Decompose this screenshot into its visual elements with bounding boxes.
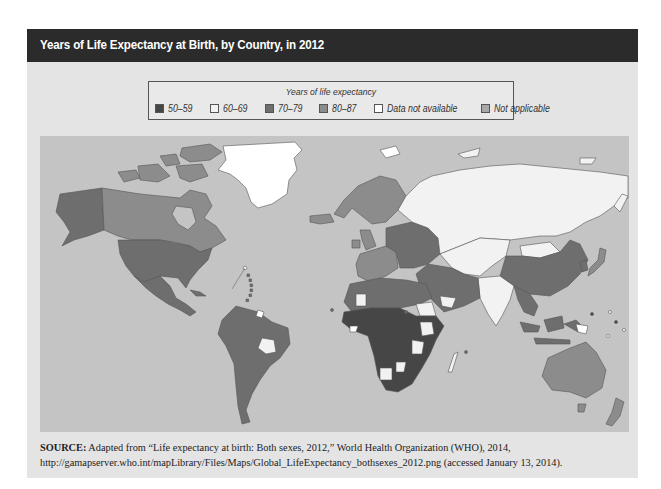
figure-panel: Years of Life Expectancy at Birth, by Co… bbox=[27, 29, 638, 478]
region-japan bbox=[588, 248, 606, 276]
world-map bbox=[40, 136, 629, 432]
legend-swatch bbox=[155, 104, 164, 113]
region-new-zealand bbox=[606, 398, 624, 426]
region-australia bbox=[542, 342, 606, 398]
region-alaska bbox=[56, 188, 104, 246]
figure-title: Years of Life Expectancy at Birth, by Co… bbox=[40, 37, 324, 52]
region-south-america bbox=[218, 306, 290, 424]
legend-label: 80–87 bbox=[332, 103, 356, 114]
world-map-svg bbox=[40, 136, 629, 432]
legend-swatch bbox=[210, 104, 219, 113]
legend-swatch bbox=[265, 104, 274, 113]
region-scandinavia bbox=[334, 176, 406, 224]
title-banner: Years of Life Expectancy at Birth, by Co… bbox=[27, 29, 638, 62]
region-canada-islands bbox=[180, 144, 222, 162]
legend-swatch bbox=[481, 104, 490, 113]
region-india bbox=[478, 276, 514, 326]
source-text: Adapted from “Life expectancy at birth: … bbox=[40, 442, 562, 468]
legend-title: Years of life expectancy bbox=[167, 86, 495, 97]
legend-label: 60–69 bbox=[223, 103, 247, 114]
region-sub-saharan-africa bbox=[342, 308, 444, 392]
legend-label: 50–59 bbox=[168, 103, 192, 114]
legend-item-data-not-available: Data not available bbox=[374, 103, 467, 114]
source-note: SOURCE: Adapted from “Life expectancy at… bbox=[40, 440, 630, 470]
legend-item-50-59: 50–59 bbox=[155, 103, 196, 114]
legend-item-not-applicable: Not applicable bbox=[481, 103, 557, 114]
legend: Years of life expectancy 50–59 60–69 70–… bbox=[148, 81, 514, 120]
legend-items: 50–59 60–69 70–79 80–87 Data not availab… bbox=[155, 103, 558, 114]
legend-swatch bbox=[319, 104, 328, 113]
region-greenland bbox=[218, 142, 302, 208]
legend-label: Data not available bbox=[387, 103, 457, 114]
region-western-europe bbox=[356, 246, 398, 282]
legend-swatch bbox=[374, 104, 383, 113]
legend-item-70-79: 70–79 bbox=[265, 103, 306, 114]
region-uk bbox=[360, 230, 376, 250]
legend-label: 70–79 bbox=[278, 103, 302, 114]
legend-item-60-69: 60–69 bbox=[210, 103, 251, 114]
source-label: SOURCE: bbox=[40, 442, 86, 453]
legend-item-80-87: 80–87 bbox=[319, 103, 360, 114]
legend-label: Not applicable bbox=[494, 103, 550, 114]
